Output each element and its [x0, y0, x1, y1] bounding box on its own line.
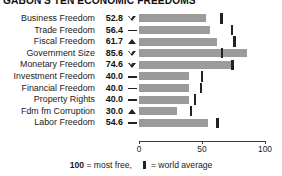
- bar-track: [139, 36, 282, 48]
- world-average-marker: [220, 13, 222, 23]
- triangle-down-icon: [128, 63, 136, 68]
- trend-up-icon: [127, 106, 138, 118]
- trend-flat-icon: [127, 71, 138, 83]
- row-label: Trade Freedom: [34, 25, 95, 37]
- bar-track: [139, 94, 282, 106]
- row-value: 30.0: [98, 106, 123, 118]
- bar-rows: Business Freedom52.8Trade Freedom56.4Fis…: [0, 13, 282, 129]
- bar: [139, 107, 177, 115]
- row-value: 40.0: [98, 94, 123, 106]
- world-average-mark-icon: [143, 161, 145, 169]
- bar: [139, 84, 189, 92]
- legend-max-value: 100: [70, 160, 84, 170]
- table-row: Labor Freedom54.6: [0, 117, 282, 129]
- row-value: 54.6: [98, 117, 123, 129]
- bar-track: [139, 117, 282, 129]
- x-axis: 050100: [139, 141, 282, 161]
- table-row: Monetary Freedom74.6: [0, 59, 282, 71]
- row-label: Business Freedom: [21, 13, 95, 25]
- trend-flat-icon: [127, 83, 138, 95]
- bar-track: [139, 13, 282, 25]
- dash-icon: [128, 88, 137, 90]
- triangle-down-icon: [128, 51, 136, 56]
- bar-track: [139, 25, 282, 37]
- row-value: 61.7: [98, 36, 123, 48]
- bar: [139, 26, 210, 34]
- dash-icon: [128, 30, 137, 32]
- row-value: 85.6: [98, 48, 123, 60]
- table-row: Financial Freedom40.0: [0, 83, 282, 95]
- axis-tick-label: 100: [250, 145, 280, 154]
- world-average-marker: [194, 94, 196, 104]
- world-average-marker: [233, 36, 235, 46]
- legend-most-free-text: = most free,: [86, 160, 132, 170]
- row-label: Fiscal Freedom: [34, 36, 95, 48]
- bar-track: [139, 59, 282, 71]
- bar-track: [139, 106, 282, 118]
- world-average-marker: [216, 118, 218, 128]
- economic-freedoms-chart: GABON'S TEN ECONOMIC FREEDOMS Business F…: [0, 0, 282, 176]
- bar: [139, 119, 208, 127]
- trend-down-icon: [127, 48, 138, 60]
- bar-track: [139, 48, 282, 60]
- axis-tick-label: 0: [124, 145, 154, 154]
- axis-tick-label: 50: [187, 145, 217, 154]
- triangle-up-icon: [128, 39, 136, 44]
- bar: [139, 14, 206, 22]
- table-row: Fiscal Freedom61.7: [0, 36, 282, 48]
- table-row: Property Rights40.0: [0, 94, 282, 106]
- row-label: Investment Freedom: [14, 71, 95, 83]
- table-row: Government Size85.6: [0, 48, 282, 60]
- row-label: Monetary Freedom: [20, 59, 95, 71]
- world-average-marker: [200, 83, 202, 93]
- chart-legend: 100 = most free, = world average: [0, 160, 282, 170]
- bar: [139, 38, 217, 46]
- table-row: Trade Freedom56.4: [0, 25, 282, 37]
- trend-flat-icon: [127, 25, 138, 37]
- row-label: Property Rights: [34, 94, 95, 106]
- bar-track: [139, 71, 282, 83]
- world-average-marker: [201, 71, 203, 81]
- triangle-down-icon: [128, 16, 136, 21]
- trend-down-icon: [127, 59, 138, 71]
- bar: [139, 72, 189, 80]
- bar: [139, 61, 233, 69]
- legend-world-average-text: = world average: [151, 160, 212, 170]
- table-row: Investment Freedom40.0: [0, 71, 282, 83]
- row-label: Financial Freedom: [22, 83, 96, 95]
- trend-up-icon: [127, 36, 138, 48]
- trend-down-icon: [127, 13, 138, 25]
- trend-flat-icon: [127, 94, 138, 106]
- bar: [139, 49, 247, 57]
- table-row: Business Freedom52.8: [0, 13, 282, 25]
- bar: [139, 96, 189, 104]
- row-label: Government Size: [26, 48, 95, 60]
- world-average-marker: [190, 106, 192, 116]
- triangle-up-icon: [128, 109, 136, 114]
- world-average-marker: [231, 25, 233, 35]
- row-label: Fdm fm Corruption: [21, 106, 95, 118]
- world-average-marker: [231, 60, 233, 70]
- dash-icon: [128, 99, 137, 101]
- trend-flat-icon: [127, 117, 138, 129]
- row-value: 40.0: [98, 71, 123, 83]
- row-label: Labor Freedom: [34, 117, 95, 129]
- row-value: 52.8: [98, 13, 123, 25]
- dash-icon: [128, 122, 137, 124]
- page-title: GABON'S TEN ECONOMIC FREEDOMS: [3, 0, 196, 6]
- row-value: 40.0: [98, 83, 123, 95]
- bar-track: [139, 83, 282, 95]
- row-value: 56.4: [98, 25, 123, 37]
- dash-icon: [128, 76, 137, 78]
- world-average-marker: [221, 48, 223, 58]
- row-value: 74.6: [98, 59, 123, 71]
- table-row: Fdm fm Corruption30.0: [0, 106, 282, 118]
